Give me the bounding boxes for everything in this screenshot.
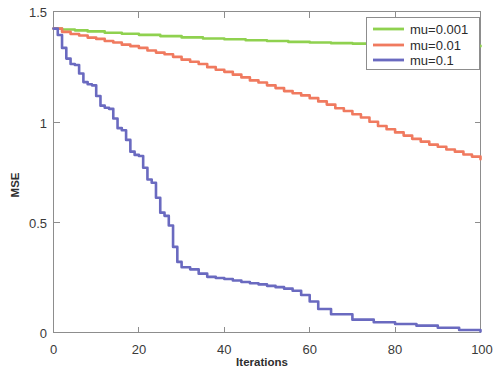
y-tick-labels: 1.5 1 0.5 0 [29, 5, 47, 341]
figure-container: 1.5 1 0.5 0 0 20 40 60 80 100 MSE Iterat… [0, 0, 494, 368]
y-axis-title: MSE [9, 172, 21, 197]
y-tick-label-0p5: 0.5 [29, 216, 47, 231]
x-tick-label-0: 0 [50, 342, 57, 357]
y-tick-label-1: 1 [40, 116, 47, 131]
x-axis-title: Iterations [236, 356, 288, 368]
x-tick-labels: 0 20 40 60 80 100 [50, 342, 493, 357]
y-tick-label-1p5: 1.5 [29, 5, 47, 20]
data-series-group [54, 29, 481, 332]
chart-legend[interactable]: mu=0.001 mu=0.01 mu=0.1 [367, 18, 480, 70]
legend-label-mu-01: mu=0.1 [410, 53, 454, 68]
x-tick-label-20: 20 [132, 342, 146, 357]
legend-label-mu-001: mu=0.01 [410, 38, 461, 53]
series-line-mu-0-1 [54, 29, 481, 332]
legend-label-mu-0001: mu=0.001 [410, 22, 468, 37]
x-tick-label-80: 80 [388, 342, 402, 357]
x-tick-label-100: 100 [471, 342, 493, 357]
mse-convergence-chart: 1.5 1 0.5 0 0 20 40 60 80 100 MSE Iterat… [0, 0, 494, 368]
y-tick-label-0: 0 [40, 326, 47, 341]
x-tick-label-60: 60 [302, 342, 316, 357]
x-tick-label-40: 40 [217, 342, 231, 357]
